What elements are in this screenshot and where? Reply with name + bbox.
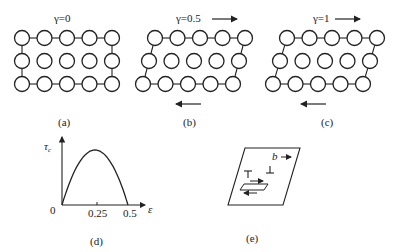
caption-e: (e) — [246, 232, 259, 245]
atom-circle — [37, 31, 52, 46]
bond-line — [282, 45, 285, 54]
caption-d: (d) — [90, 235, 103, 248]
bond-line — [372, 45, 375, 54]
lattice-c — [266, 31, 385, 92]
x-tick-label-05: 0.5 — [123, 207, 137, 219]
atom-circle — [238, 31, 253, 46]
atom-circle — [288, 77, 303, 92]
atom-circle — [280, 31, 295, 46]
atom-circle — [215, 31, 230, 46]
atom-circle — [158, 77, 173, 92]
atom-circle — [363, 54, 378, 69]
atom-circle — [370, 31, 385, 46]
caption-a: (a) — [58, 116, 71, 129]
slip-patch — [240, 184, 268, 190]
panel-b: γ=0.5 (b) — [136, 12, 253, 129]
gamma-label-b: γ=0.5 — [175, 12, 201, 24]
origin-label: 0 — [50, 204, 56, 216]
bond-line — [235, 68, 237, 76]
atom-circle — [203, 77, 218, 92]
atom-circle — [15, 31, 30, 46]
bond-line — [275, 68, 278, 77]
gamma-label-a: γ=0 — [53, 12, 71, 24]
bond-line — [241, 45, 243, 53]
atom-circle — [105, 77, 120, 92]
atom-circle — [15, 54, 30, 69]
lattice-b — [136, 31, 253, 92]
atom-circle — [187, 54, 202, 69]
atom-circle — [325, 31, 340, 46]
x-tick-label-025: 0.25 — [88, 207, 108, 219]
atom-circle — [60, 54, 75, 69]
atom-circle — [60, 31, 75, 46]
atom-circle — [142, 54, 157, 69]
bond-line — [365, 68, 368, 77]
caption-c: (c) — [321, 116, 334, 129]
atom-circle — [340, 54, 355, 69]
figure-canvas: γ=0 (a) γ=0.5 (b) γ=1 (c) τc ε 0 0.25 0.… — [0, 0, 394, 252]
atom-circle — [295, 54, 310, 69]
lattice-a — [15, 31, 120, 92]
y-axis-label: τc — [44, 140, 52, 154]
x-axis-label: ε — [148, 203, 153, 215]
atom-circle — [148, 31, 163, 46]
atom-circle — [136, 77, 151, 92]
edge-dislocation-inverted-icon — [244, 171, 252, 178]
atom-circle — [232, 54, 247, 69]
atom-circle — [266, 77, 281, 92]
atom-circle — [333, 77, 348, 92]
atom-circle — [193, 31, 208, 46]
atom-circle — [311, 77, 326, 92]
atom-circle — [302, 31, 317, 46]
panel-a: γ=0 (a) — [15, 12, 120, 129]
bond-line — [145, 68, 147, 76]
atom-circle — [170, 31, 185, 46]
bond-line — [151, 45, 153, 53]
atom-circle — [37, 77, 52, 92]
burgers-vector-label: b — [272, 150, 278, 162]
atom-circle — [226, 77, 241, 92]
atom-circle — [105, 31, 120, 46]
atom-circle — [82, 54, 97, 69]
atom-circle — [318, 54, 333, 69]
edge-dislocation-icon — [266, 166, 274, 173]
atom-circle — [164, 54, 179, 69]
caption-b: (b) — [183, 116, 196, 129]
tau-c-curve — [62, 150, 128, 205]
atom-circle — [273, 54, 288, 69]
atom-circle — [209, 54, 224, 69]
panel-e: b (e) — [228, 148, 300, 245]
atom-circle — [37, 54, 52, 69]
atom-circle — [181, 77, 196, 92]
atom-circle — [60, 77, 75, 92]
panel-d-chart: τc ε 0 0.25 0.5 (d) — [44, 137, 153, 248]
atom-circle — [347, 31, 362, 46]
gamma-label-c: γ=1 — [312, 12, 330, 24]
atom-circle — [105, 54, 120, 69]
atom-circle — [15, 77, 30, 92]
panel-c: γ=1 (c) — [266, 12, 385, 129]
atom-circle — [356, 77, 371, 92]
atom-circle — [82, 77, 97, 92]
atom-circle — [82, 31, 97, 46]
